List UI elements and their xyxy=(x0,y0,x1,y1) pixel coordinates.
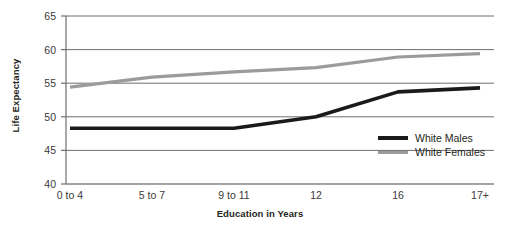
legend-item-white-females: White Females xyxy=(378,145,485,159)
x-axis-title: Education in Years xyxy=(0,208,520,219)
legend-swatch-white-males xyxy=(378,136,408,140)
chart-legend: White Males White Females xyxy=(378,131,485,159)
y-axis-ticks xyxy=(61,16,66,184)
legend-label-white-females: White Females xyxy=(415,146,485,158)
x-tick-12: 12 xyxy=(310,189,322,201)
x-tick-0-to-4: 0 to 4 xyxy=(57,189,83,201)
series-line-white-females xyxy=(70,54,480,88)
legend-label-white-males: White Males xyxy=(415,132,473,144)
x-tick-17-plus: 17+ xyxy=(471,189,489,201)
legend-item-white-males: White Males xyxy=(378,131,485,145)
x-tick-5-to-7: 5 to 7 xyxy=(139,189,165,201)
series-line-white-males xyxy=(70,88,480,128)
x-tick-9-to-11: 9 to 11 xyxy=(218,189,249,201)
life-expectancy-line-chart: Life Expectancy 65 60 55 50 45 40 xyxy=(0,0,520,232)
legend-swatch-white-females xyxy=(378,151,408,154)
x-tick-16: 16 xyxy=(392,189,404,201)
